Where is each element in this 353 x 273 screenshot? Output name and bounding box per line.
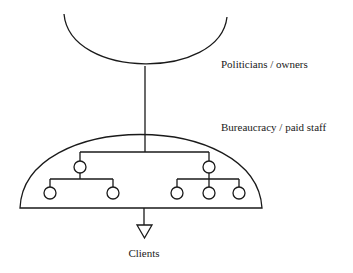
left-manager-node	[74, 161, 86, 173]
bureaucracy-dome	[20, 135, 262, 209]
organization-diagram: Politicians / owners Bureaucracy / paid …	[0, 0, 353, 273]
clients-triangle-icon	[137, 225, 152, 238]
staff-node	[107, 187, 119, 199]
staff-node	[44, 187, 56, 199]
bureaucracy-label: Bureaucracy / paid staff	[221, 121, 327, 133]
owners-label: Politicians / owners	[221, 58, 308, 70]
staff-node	[203, 187, 215, 199]
right-manager-node	[203, 161, 215, 173]
owners-arc	[64, 14, 227, 64]
clients-label: Clients	[128, 247, 159, 259]
staff-node	[233, 187, 245, 199]
staff-node	[171, 187, 183, 199]
